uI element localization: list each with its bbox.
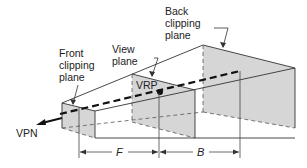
- vpn-label: VPN: [16, 127, 38, 139]
- back-clipping-plane: [203, 45, 295, 128]
- leader-arrow-icon: [70, 99, 76, 105]
- front-distance-label: F: [116, 146, 124, 158]
- arrow-left-icon: [160, 150, 166, 155]
- arrow-right-icon: [152, 150, 158, 155]
- vrp-label: VRP: [136, 79, 158, 91]
- leader-arrow-icon: [149, 71, 155, 77]
- vpn-arrowhead-icon: [36, 119, 46, 125]
- back-distance-label: B: [197, 146, 204, 158]
- front-clipping-plane-label: Front clipping plane: [59, 47, 98, 83]
- arrow-left-icon: [80, 150, 86, 155]
- back-clipping-plane-label: Back clipping plane: [165, 5, 204, 41]
- vrp-point: [157, 89, 163, 95]
- arrow-right-icon: [233, 150, 239, 155]
- leader-arrow-icon: [220, 42, 226, 48]
- view-plane-label: View plane: [112, 43, 138, 67]
- view-volume-diagram: Back clipping plane View plane Front cli…: [0, 0, 307, 168]
